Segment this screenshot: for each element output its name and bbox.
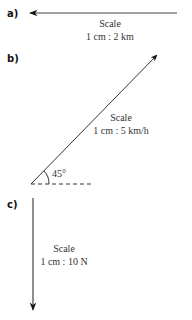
vector-diagrams: a) Scale 1 cm : 2 km b) 45° Scale 1 cm :… [0,0,192,320]
label-c: c) [7,199,18,210]
diagram-a: a) Scale 1 cm : 2 km [7,8,177,42]
scale-title-a: Scale [99,18,121,29]
vector-arrow-northeast [31,55,157,184]
angle-arc [44,171,49,184]
angle-label: 45° [52,168,66,179]
label-a: a) [7,8,18,19]
scale-value-c: 1 cm : 10 N [40,256,87,267]
label-b: b) [7,53,19,64]
diagram-b: b) 45° Scale 1 cm : 5 km/h [7,53,157,184]
diagram-c: c) Scale 1 cm : 10 N [7,198,88,310]
scale-title-c: Scale [53,243,75,254]
scale-value-b: 1 cm : 5 km/h [93,125,149,136]
scale-title-b: Scale [110,112,132,123]
scale-value-a: 1 cm : 2 km [86,31,134,42]
